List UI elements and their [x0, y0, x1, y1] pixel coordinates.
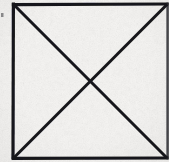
square-with-diagonals-figure: Square with both diagonals drawn A hand/…: [0, 0, 169, 162]
square-top-edge: [12, 4, 169, 5]
figure-container: Square with both diagonals drawn A hand/…: [0, 0, 169, 162]
margin-speck: [1, 13, 4, 17]
paper-background: [0, 0, 169, 162]
